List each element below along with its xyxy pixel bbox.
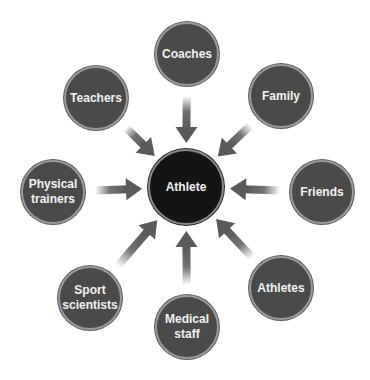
arrow-sport-scientists-to-athlete <box>109 213 165 273</box>
center-label: Athlete <box>166 180 207 195</box>
node-label: Family <box>262 89 300 104</box>
arrow-friends-to-athlete <box>230 178 281 202</box>
node-label: Coaches <box>162 47 212 62</box>
node-label: Physical trainers <box>25 177 81 207</box>
node-sport-scientists: Sport scientists <box>58 266 122 330</box>
node-athletes: Athletes <box>249 256 313 320</box>
node-athlete-center: Athlete <box>148 149 224 225</box>
node-label: Medical staff <box>159 312 215 342</box>
arrow-family-to-athlete <box>210 117 258 164</box>
arrow-athletes-to-athlete <box>208 212 260 265</box>
node-medical-staff: Medical staff <box>155 295 219 359</box>
node-label: Sport scientists <box>62 283 118 313</box>
arrow-physical-trainers-to-athlete <box>95 178 143 202</box>
node-coaches: Coaches <box>155 22 219 86</box>
arrow-coaches-to-athlete <box>175 96 197 143</box>
node-teachers: Teachers <box>64 66 128 130</box>
node-label: Friends <box>300 185 343 200</box>
arrow-teachers-to-athlete <box>118 120 162 164</box>
arrow-medical-staff-to-athlete <box>175 231 197 285</box>
node-family: Family <box>249 64 313 128</box>
node-label: Athletes <box>257 281 304 296</box>
node-label: Teachers <box>70 91 122 106</box>
node-friends: Friends <box>290 160 354 224</box>
node-physical-trainers: Physical trainers <box>21 160 85 224</box>
